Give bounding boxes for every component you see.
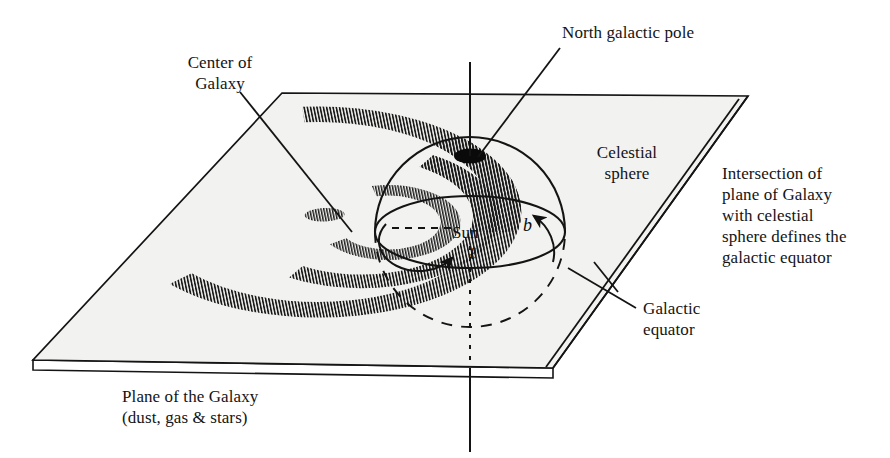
label-celestial-sphere: Celestial sphere bbox=[566, 142, 688, 184]
label-plane-of-galaxy: Plane of the Galaxy (dust, gas & stars) bbox=[122, 386, 258, 428]
label-galactic-longitude-l: ℓ bbox=[469, 244, 476, 264]
label-center-of-galaxy: Center of Galaxy bbox=[157, 52, 283, 94]
label-intersection-note: Intersection of plane of Galaxy with cel… bbox=[722, 163, 890, 268]
label-galactic-latitude-b: b bbox=[523, 215, 532, 236]
galactic-coordinates-figure: Center of Galaxy North galactic pole Cel… bbox=[0, 0, 890, 458]
label-sun: Sun bbox=[452, 223, 478, 243]
label-north-galactic-pole: North galactic pole bbox=[562, 22, 694, 43]
label-galactic-equator: Galactic equator bbox=[643, 298, 700, 340]
plane-top-surface bbox=[33, 93, 748, 368]
